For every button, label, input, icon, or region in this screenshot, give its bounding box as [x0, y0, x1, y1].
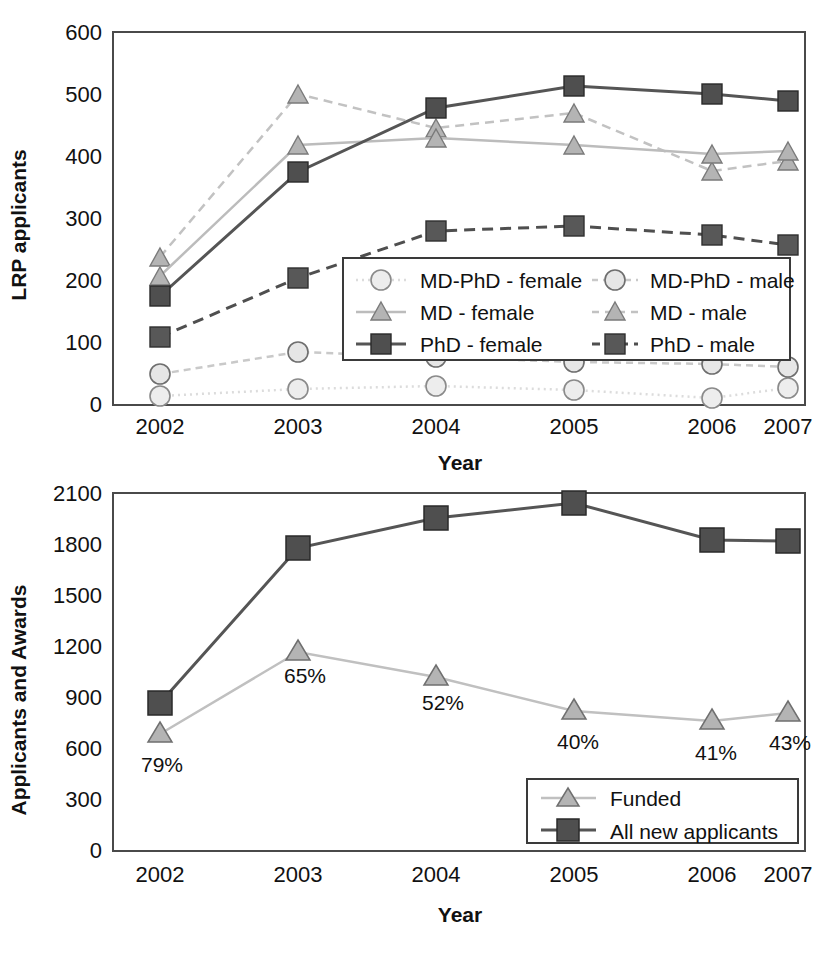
- data-point: [776, 529, 800, 553]
- square-icon: [371, 334, 391, 354]
- data-point: [288, 379, 308, 399]
- x-tick-2005: 2005: [550, 414, 599, 439]
- legend-label: All new applicants: [610, 820, 778, 843]
- data-point: [426, 376, 446, 396]
- series-line-funded: [160, 652, 788, 734]
- y-tick-300: 300: [65, 787, 102, 812]
- y-tick-400: 400: [65, 144, 102, 169]
- data-point: [776, 701, 800, 721]
- x-tick-2006: 2006: [688, 414, 737, 439]
- chart-panel-top: LRP applicants 600 500 400 300 200 100 0: [0, 0, 817, 477]
- x-tick-2005: 2005: [550, 862, 599, 887]
- pct-label-2006: 41%: [695, 741, 737, 764]
- data-point: [778, 235, 798, 255]
- data-point: [778, 91, 798, 111]
- y-tick-100: 100: [65, 330, 102, 355]
- x-tick-2006: 2006: [688, 862, 737, 887]
- y-tick-1200: 1200: [53, 634, 102, 659]
- pct-label-2003: 65%: [284, 664, 326, 687]
- data-point: [288, 162, 308, 182]
- legend-label: PhD - female: [420, 333, 543, 356]
- series-line-md-male: [160, 94, 788, 257]
- data-point: [148, 722, 172, 742]
- data-point: [426, 98, 446, 118]
- x-axis-ticks-bottom: 2002 2003 2004 2005 2006 2007: [136, 862, 813, 887]
- series-md-phd-female: [150, 376, 798, 408]
- y-tick-600: 600: [65, 736, 102, 761]
- chart-panel-bottom: Applicants and Awards 2100 1800 1500 120…: [0, 470, 817, 954]
- data-point: [150, 286, 170, 306]
- pct-label-2005: 40%: [557, 730, 599, 753]
- data-point: [778, 378, 798, 398]
- data-point: [288, 85, 308, 103]
- legend-label: MD-PhD - male: [650, 269, 795, 292]
- pct-label-2004: 52%: [422, 691, 464, 714]
- series-funded: [148, 640, 800, 742]
- x-axis-ticks-top: 2002 2003 2004 2005 2006 2007: [136, 414, 813, 439]
- data-point: [288, 268, 308, 288]
- data-point: [426, 221, 446, 241]
- legend-label: MD-PhD - female: [420, 269, 582, 292]
- circle-icon: [371, 270, 391, 290]
- circle-icon: [605, 270, 625, 290]
- data-point: [150, 364, 170, 384]
- square-icon: [557, 819, 579, 841]
- y-tick-200: 200: [65, 268, 102, 293]
- data-point: [702, 388, 722, 408]
- x-tick-2002: 2002: [136, 862, 185, 887]
- data-point: [564, 76, 584, 96]
- x-tick-2007: 2007: [764, 414, 813, 439]
- data-point: [562, 491, 586, 515]
- data-point: [288, 342, 308, 362]
- legend-top[interactable]: MD-PhD - female MD-PhD - male MD - femal…: [343, 258, 795, 360]
- data-point: [286, 640, 310, 660]
- legend-item-md-male[interactable]: MD - male: [592, 301, 747, 324]
- y-axis-title-top: LRP applicants: [7, 149, 30, 300]
- x-axis-title-bottom: Year: [438, 903, 482, 926]
- series-line-md-female: [160, 138, 788, 276]
- x-tick-2003: 2003: [274, 862, 323, 887]
- square-icon: [605, 334, 625, 354]
- data-point: [702, 84, 722, 104]
- y-tick-500: 500: [65, 82, 102, 107]
- x-tick-2004: 2004: [412, 862, 461, 887]
- x-tick-2007: 2007: [764, 862, 813, 887]
- data-point: [286, 536, 310, 560]
- y-tick-900: 900: [65, 685, 102, 710]
- x-tick-2003: 2003: [274, 414, 323, 439]
- series-all-new-applicants: [148, 491, 800, 715]
- legend-item-phd-female[interactable]: PhD - female: [356, 333, 543, 356]
- legend-label: Funded: [610, 787, 681, 810]
- data-point: [150, 327, 170, 347]
- legend-bottom[interactable]: Funded All new applicants: [527, 779, 798, 843]
- y-tick-1500: 1500: [53, 583, 102, 608]
- legend-label: MD - female: [420, 301, 534, 324]
- legend-item-phd-male[interactable]: PhD - male: [592, 333, 755, 356]
- y-axis-title-bottom: Applicants and Awards: [7, 584, 30, 815]
- y-tick-300: 300: [65, 206, 102, 231]
- data-point: [564, 380, 584, 400]
- series-line-all-new-applicants: [160, 503, 788, 703]
- legend-label: PhD - male: [650, 333, 755, 356]
- x-tick-2004: 2004: [412, 414, 461, 439]
- legend-item-md-female[interactable]: MD - female: [356, 301, 534, 324]
- y-axis-ticks-top: 600 500 400 300 200 100 0: [65, 20, 102, 417]
- lrp-applicants-chart: LRP applicants 600 500 400 300 200 100 0: [0, 0, 817, 477]
- y-tick-1800: 1800: [53, 532, 102, 557]
- y-tick-0: 0: [90, 838, 102, 863]
- legend-label: MD - male: [650, 301, 747, 324]
- data-point: [150, 386, 170, 406]
- data-point: [150, 248, 170, 266]
- data-point: [148, 691, 172, 715]
- y-tick-2100: 2100: [53, 481, 102, 506]
- data-point: [424, 506, 448, 530]
- y-axis-ticks-bottom: 2100 1800 1500 1200 900 600 300 0: [53, 481, 102, 863]
- legend-item-all-new-applicants[interactable]: All new applicants: [541, 819, 778, 843]
- series-line-md-phd-female: [160, 386, 788, 398]
- x-tick-2002: 2002: [136, 414, 185, 439]
- pct-label-2007: 43%: [769, 731, 811, 754]
- pct-label-2002: 79%: [141, 753, 183, 776]
- data-point: [702, 225, 722, 245]
- data-point: [700, 528, 724, 552]
- applicants-and-awards-chart: Applicants and Awards 2100 1800 1500 120…: [0, 470, 817, 954]
